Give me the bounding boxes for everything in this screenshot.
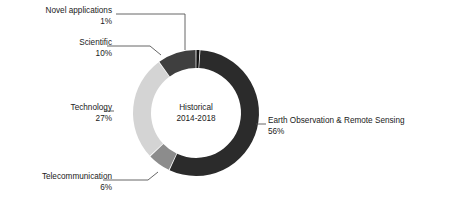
slice-label-novel-applications: Novel applications 1% (46, 6, 112, 27)
leader-line-scientific (107, 46, 161, 55)
donut-center-subtitle: 2014-2018 (146, 113, 246, 124)
donut-center-title: Historical (146, 102, 246, 113)
leader-line-novel-applications (116, 14, 185, 50)
donut-slice-novel-applications[interactable] (196, 50, 199, 68)
slice-label-earth-observation: Earth Observation & Remote Sensing 56% (268, 116, 405, 137)
slice-label-scientific: Scientific 10% (79, 38, 112, 59)
slice-label-name: Earth Observation & Remote Sensing (268, 116, 405, 127)
slice-label-name: Scientific (79, 38, 112, 49)
slice-label-value: 56% (268, 127, 405, 138)
slice-label-name: Technology (71, 103, 112, 114)
slice-label-value: 6% (42, 183, 112, 194)
donut-center-label: Historical 2014-2018 (146, 102, 246, 124)
slice-label-value: 1% (46, 17, 112, 28)
donut-chart: Novel applications 1% Scientific 10% Tec… (0, 0, 456, 210)
slice-label-value: 27% (71, 114, 112, 125)
slice-label-name: Telecommunication (42, 172, 112, 183)
slice-label-value: 10% (79, 49, 112, 60)
slice-label-telecommunication: Telecommunication 6% (42, 172, 112, 193)
slice-label-name: Novel applications (46, 6, 112, 17)
slice-label-technology: Technology 27% (71, 103, 112, 124)
